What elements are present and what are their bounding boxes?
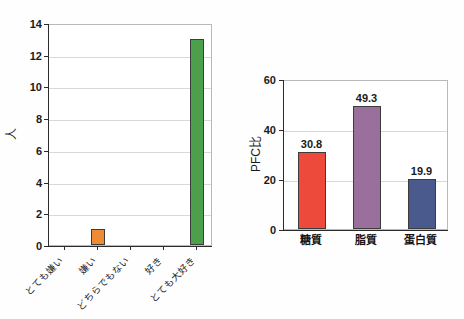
ytick-2	[44, 214, 48, 215]
gridline-12	[49, 57, 211, 58]
bar-shishitsu	[353, 106, 381, 229]
ytick-12	[44, 56, 48, 57]
ytick-20	[279, 180, 283, 181]
bar-toushitsu	[298, 152, 326, 229]
xtick-label-shishitsu: 脂質	[336, 235, 396, 246]
gridline-6	[49, 152, 211, 153]
bar-totemo-daisuki	[190, 39, 204, 245]
xtick-label-totemo-kirai: とても嫌い	[0, 255, 65, 319]
xtick-label-toushitsu: 糖質	[281, 235, 341, 246]
ytick-label-6: 6	[16, 146, 42, 157]
xtick-3	[163, 246, 164, 250]
ytick-label-0: 0	[252, 225, 276, 236]
right-plot-area: 30.8 49.3 19.9	[283, 80, 448, 230]
xtick-2	[130, 246, 131, 250]
ytick-label-12: 12	[16, 51, 42, 62]
xtick-1	[97, 246, 98, 250]
ytick-label-4: 4	[16, 178, 42, 189]
ytick-14	[44, 24, 48, 25]
right-x-axis	[283, 230, 448, 231]
ytick-4	[44, 183, 48, 184]
bar-value-shishitsu: 49.3	[343, 93, 391, 104]
gridline-8	[49, 120, 211, 121]
gridline-10	[49, 88, 211, 89]
right-y-axis-title: PFC比	[250, 124, 262, 184]
ytick-0	[44, 246, 48, 247]
left-y-axis	[48, 24, 49, 247]
bar-kirai	[91, 229, 105, 245]
ytick-label-14: 14	[16, 19, 42, 30]
preference-bar-chart: 14 12 10 8 6 4 2 0 とても嫌い 嫌い どちらでもない 好き と…	[0, 0, 232, 319]
ytick-label-0: 0	[16, 241, 42, 252]
ytick-10	[44, 87, 48, 88]
xtick-4	[196, 246, 197, 250]
gridline-4	[49, 184, 211, 185]
right-y-axis	[283, 80, 284, 231]
ytick-label-10: 10	[16, 82, 42, 93]
ytick-label-60: 60	[252, 75, 276, 86]
ytick-label-2: 2	[16, 209, 42, 220]
ytick-8	[44, 119, 48, 120]
ytick-label-8: 8	[16, 114, 42, 125]
pfc-ratio-bar-chart: 30.8 49.3 19.9 60 40 20 0 糖質 脂質 蛋白質 PFC比	[232, 0, 464, 319]
ytick-0	[279, 230, 283, 231]
bar-tanpakushitsu	[408, 179, 436, 229]
xtick-0	[64, 246, 65, 250]
gridline-2	[49, 215, 211, 216]
ytick-6	[44, 151, 48, 152]
bar-value-toushitsu: 30.8	[288, 139, 336, 150]
bar-value-tanpakushitsu: 19.9	[398, 166, 446, 177]
xtick-label-tanpakushitsu: 蛋白質	[391, 235, 451, 246]
left-y-axis-title: 人	[6, 128, 18, 140]
left-plot-area	[48, 24, 212, 246]
ytick-60	[279, 80, 283, 81]
ytick-40	[279, 130, 283, 131]
